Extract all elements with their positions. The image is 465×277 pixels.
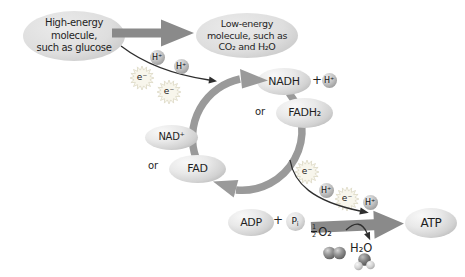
one-half-fraction: 12 xyxy=(311,224,317,240)
node-fad: FAD xyxy=(169,155,226,183)
node-high-energy-molecule: High-energy molecule, such as glucose xyxy=(23,11,125,61)
or-label-fad: or xyxy=(148,160,158,171)
node-low-energy-molecule: Low-energy molecule, such as CO₂ and H₂O xyxy=(196,13,298,58)
metabolism-diagram: High-energy molecule, such as glucose Lo… xyxy=(0,0,465,277)
node-fadh2: FADH₂ xyxy=(276,98,333,128)
or-label-fadh2: or xyxy=(255,106,265,117)
phosphate-sphere: Pi xyxy=(286,212,305,231)
electron-label: e⁻ xyxy=(336,193,358,203)
proton-sphere: H⁺ xyxy=(319,183,334,198)
half-o2-label: 12 O₂ xyxy=(311,224,332,240)
electron-label: e⁻ xyxy=(296,166,318,176)
h2o-label: H₂O xyxy=(350,241,372,255)
electron-label: e⁻ xyxy=(131,72,153,82)
plus-sign-adp: + xyxy=(273,213,283,227)
electron-label: e⁻ xyxy=(158,86,180,96)
node-adp: ADP xyxy=(228,209,274,236)
cycle-arc-left xyxy=(192,79,240,158)
node-nad-plus: NAD⁺ xyxy=(145,125,198,150)
electron-flow-arrowhead-top xyxy=(209,77,218,84)
o2-molecule xyxy=(323,247,346,260)
proton-sphere: H⁺ xyxy=(174,59,189,74)
proton-sphere: H⁺ xyxy=(150,50,165,65)
proton-sphere: H⁺ xyxy=(322,73,337,88)
proton-sphere: H⁺ xyxy=(363,195,378,210)
node-nadh: NADH xyxy=(257,68,311,95)
plus-sign-nadh: + xyxy=(312,73,322,87)
phosphate-subscript: i xyxy=(297,220,299,228)
h2o-molecule xyxy=(354,253,375,270)
o2-formula: O₂ xyxy=(318,225,332,239)
node-atp: ATP xyxy=(405,208,457,238)
